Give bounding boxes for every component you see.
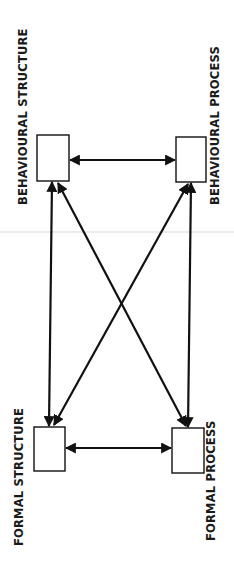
label-formal-process: FORMAL PROCESS [205,421,218,541]
edge-behavioural-structure-formal-structure [49,182,52,426]
label-behavioural-structure: BEHAVIOURAL STRUCTURE [17,28,30,205]
node-box-formal-process [172,428,204,473]
node-box-behavioural-process [176,137,206,182]
diagram-graphics [0,0,234,582]
node-box-formal-structure [34,427,65,471]
edge-behavioural-process-formal-structure [54,184,188,425]
label-formal-structure: FORMAL STRUCTURE [13,408,26,546]
node-box-behavioural-structure [37,135,69,181]
edge-behavioural-process-formal-process [188,183,191,427]
label-behavioural-process: BEHAVIOURAL PROCESS [209,46,222,205]
diagram-canvas: BEHAVIOURAL STRUCTURE BEHAVIOURAL PROCES… [0,0,234,582]
